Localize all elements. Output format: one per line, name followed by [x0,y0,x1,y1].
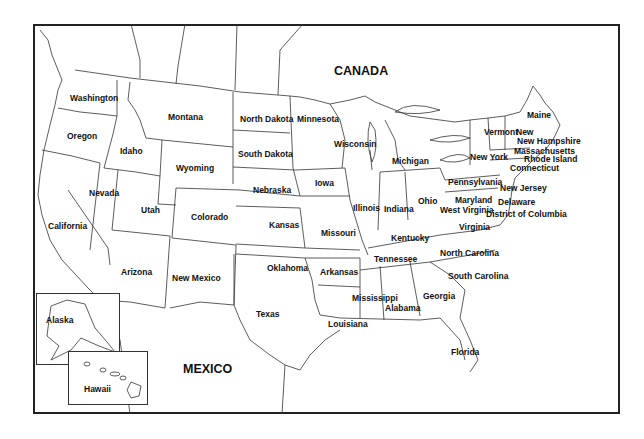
state-label-minnesota: Minnesota [297,115,339,124]
state-label-georgia: Georgia [423,292,455,301]
hawaii-inset [68,351,148,405]
state-label-south-dakota: South Dakota [238,150,293,159]
inset-label-hawaii: Hawaii [84,385,111,394]
state-label-ohio: Ohio [418,197,437,206]
state-label-new-york: New York [470,153,508,162]
state-label-missouri: Missouri [321,229,356,238]
state-label-massachusetts: Massachusetts [514,147,575,156]
state-label-kentucky: Kentucky [391,234,429,243]
state-label-arkansas: Arkansas [320,268,358,277]
state-label-new-mexico: New Mexico [172,274,221,283]
countrie-label-mexico: MEXICO [183,363,232,376]
state-label-michigan: Michigan [392,157,429,166]
state-label-alabama: Alabama [385,304,420,313]
state-label-florida: Florida [451,348,479,357]
hawaii-islands-icon [69,352,149,406]
state-label-connecticut: Connecticut [510,164,559,173]
state-label-nevada: Nevada [89,189,119,198]
state-label-colorado: Colorado [191,213,228,222]
state-label-delaware: Delaware [498,198,535,207]
state-label-utah: Utah [141,206,160,215]
state-label-oklahoma: Oklahoma [267,264,308,273]
state-label-new: New [516,128,533,137]
inset-label-alaska: Alaska [46,316,73,325]
state-label-montana: Montana [168,113,203,122]
state-label-new-hampshire: New Hampshire [517,137,581,146]
state-label-vermont: Vermont [484,128,518,137]
state-label-indiana: Indiana [384,205,414,214]
state-label-mississippi: Mississippi [352,294,398,303]
state-label-nebraska: Nebraska [253,186,291,195]
state-label-south-carolina: South Carolina [448,272,508,281]
state-label-iowa: Iowa [315,179,334,188]
state-label-district-of-columbia: District of Columbia [486,210,567,219]
state-label-tennessee: Tennessee [374,255,417,264]
state-label-oregon: Oregon [67,132,97,141]
state-label-wisconsin: Wisconsin [334,140,376,149]
state-label-washington: Washington [70,94,118,103]
state-label-maine: Maine [527,111,551,120]
state-label-maryland: Maryland [455,196,492,205]
state-label-arizona: Arizona [121,268,152,277]
state-label-wyoming: Wyoming [176,164,214,173]
state-label-louisiana: Louisiana [328,320,368,329]
state-label-pennsylvania: Pennsylvania [448,178,502,187]
state-label-virginia: Virginia [459,223,490,232]
state-label-north-dakota: North Dakota [240,115,293,124]
state-label-new-jersey: New Jersey [500,184,547,193]
state-label-idaho: Idaho [120,147,143,156]
state-label-california: California [48,222,87,231]
state-label-texas: Texas [256,310,279,319]
state-label-kansas: Kansas [269,221,299,230]
countrie-label-canada: CANADA [334,65,388,78]
state-label-rhode-island: Rhode Island [524,155,577,164]
state-label-illinois: Illinois [353,204,380,213]
state-label-north-carolina: North Carolina [440,249,499,258]
